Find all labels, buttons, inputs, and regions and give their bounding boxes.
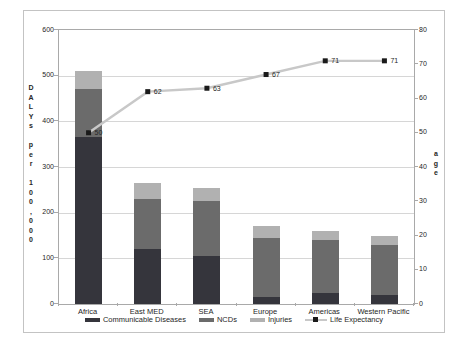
life-expectancy-marker-icon xyxy=(313,317,318,322)
legend-label-ncds: NCDs xyxy=(217,315,237,324)
left-axis-tick-0: 0 xyxy=(30,300,54,307)
left-axis-tickmark-100 xyxy=(54,257,58,258)
ncds-swatch xyxy=(199,318,214,322)
x-axis-tickmark-1 xyxy=(117,303,118,306)
legend-label-injuries: Injuries xyxy=(268,315,292,324)
left-axis-tickmark-300 xyxy=(54,166,58,167)
right-axis-tickmark-80 xyxy=(414,29,418,30)
right-axis-tick-0: 0 xyxy=(419,300,423,307)
left-axis-tick-400: 400 xyxy=(30,117,54,124)
x-axis-tickmark-4 xyxy=(295,303,296,306)
life-expectancy-line-swatch xyxy=(305,319,327,321)
life-expectancy-marker-africa xyxy=(86,130,91,135)
left-axis-tickmark-500 xyxy=(54,75,58,76)
life-expectancy-label-europe: 67 xyxy=(272,71,280,78)
right-axis-tickmark-10 xyxy=(414,269,418,270)
left-axis-tickmark-400 xyxy=(54,120,58,121)
right-axis-tick-20: 20 xyxy=(419,231,427,238)
legend-label-life-expectancy: Life Expectancy xyxy=(330,315,383,324)
legend-item-life-expectancy: Life Expectancy xyxy=(305,315,383,324)
right-axis-tickmark-30 xyxy=(414,200,418,201)
life-expectancy-line: 506263677171 xyxy=(59,30,414,304)
left-axis-tick-500: 500 xyxy=(30,71,54,78)
legend-item-ncds: NCDs xyxy=(199,315,237,324)
right-axis-tickmark-20 xyxy=(414,235,418,236)
left-axis-tickmark-200 xyxy=(54,212,58,213)
legend-item-injuries: Injuries xyxy=(250,315,292,324)
right-axis-tick-50: 50 xyxy=(419,128,427,135)
left-axis-tick-100: 100 xyxy=(30,254,54,261)
x-axis-tickmark-0 xyxy=(58,303,59,306)
life-expectancy-label-africa: 50 xyxy=(95,129,103,136)
legend: Communicable Diseases NCDs Injuries Life… xyxy=(24,315,444,324)
life-expectancy-marker-east-med xyxy=(145,89,150,94)
left-axis-tick-200: 200 xyxy=(30,208,54,215)
legend-item-communicable-diseases: Communicable Diseases xyxy=(85,315,186,324)
right-axis-tick-80: 80 xyxy=(419,26,427,33)
life-expectancy-marker-sea xyxy=(204,86,209,91)
injuries-swatch xyxy=(250,318,265,322)
x-axis-tickmark-5 xyxy=(354,303,355,306)
right-axis-tick-40: 40 xyxy=(419,163,427,170)
life-expectancy-marker-europe xyxy=(264,72,269,77)
x-axis-tickmark-6 xyxy=(413,303,414,306)
life-expectancy-marker-western-pacific xyxy=(382,58,387,63)
plot-area: 506263677171 xyxy=(58,29,415,305)
x-axis-tickmark-3 xyxy=(236,303,237,306)
left-axis-tickmark-600 xyxy=(54,29,58,30)
right-axis-tick-30: 30 xyxy=(419,197,427,204)
right-axis-tick-10: 10 xyxy=(419,265,427,272)
life-expectancy-label-americas: 71 xyxy=(331,57,339,64)
communicable-diseases-swatch xyxy=(85,318,100,322)
life-expectancy-label-sea: 63 xyxy=(213,85,221,92)
left-axis-tick-600: 600 xyxy=(30,26,54,33)
right-axis-tick-60: 60 xyxy=(419,94,427,101)
left-axis-tick-300: 300 xyxy=(30,163,54,170)
chart-figure: 506263677171 DALYs per 100,000 age 01002… xyxy=(23,10,445,333)
life-expectancy-marker-americas xyxy=(323,58,328,63)
x-axis-tickmark-2 xyxy=(176,303,177,306)
chart-screenshot: 506263677171 DALYs per 100,000 age 01002… xyxy=(0,0,462,352)
life-expectancy-label-east-med: 62 xyxy=(154,88,162,95)
right-axis-tickmark-70 xyxy=(414,63,418,64)
legend-label-communicable-diseases: Communicable Diseases xyxy=(103,315,186,324)
right-axis-tickmark-50 xyxy=(414,132,418,133)
right-axis-tick-70: 70 xyxy=(419,60,427,67)
right-axis-title: age xyxy=(430,149,442,178)
life-expectancy-label-western-pacific: 71 xyxy=(390,57,398,64)
right-axis-tickmark-40 xyxy=(414,166,418,167)
right-axis-tickmark-60 xyxy=(414,98,418,99)
right-axis-tickmark-0 xyxy=(414,303,418,304)
